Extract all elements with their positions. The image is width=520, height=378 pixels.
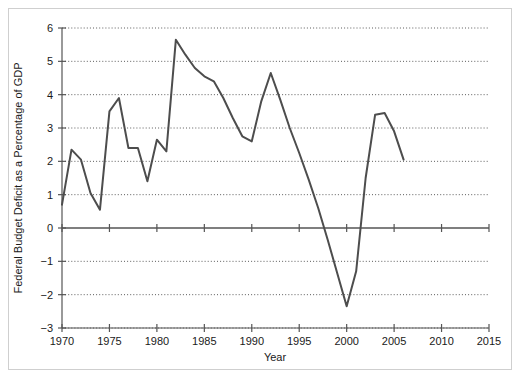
y-tick-labels-group: −3−2−10123456 bbox=[40, 22, 53, 334]
deficit-series-line bbox=[62, 40, 404, 307]
x-tick-label-1970: 1970 bbox=[50, 335, 74, 347]
chart-figure: −3−2−10123456 19701975198019851990199520… bbox=[0, 0, 520, 378]
x-tick-label-1990: 1990 bbox=[240, 335, 264, 347]
y-axis-title: Federal Budget Deficit as a Percentage o… bbox=[12, 62, 24, 293]
y-tick-label-1: 1 bbox=[47, 189, 53, 201]
x-tick-label-1980: 1980 bbox=[145, 335, 169, 347]
y-tick-label--1: −1 bbox=[40, 255, 53, 267]
x-axis-title: Year bbox=[264, 351, 287, 363]
y-tick-label-6: 6 bbox=[47, 22, 53, 34]
x-tick-label-2000: 2000 bbox=[334, 335, 358, 347]
x-tick-labels-group: 1970197519801985199019952000200520102015 bbox=[50, 335, 501, 347]
y-tick-label-0: 0 bbox=[47, 222, 53, 234]
line-chart-plot: −3−2−10123456 19701975198019851990199520… bbox=[0, 0, 520, 378]
y-tick-label--2: −2 bbox=[40, 289, 53, 301]
y-tick-label-2: 2 bbox=[47, 155, 53, 167]
x-tick-label-1995: 1995 bbox=[287, 335, 311, 347]
gridlines-group bbox=[62, 28, 489, 328]
x-tick-label-1985: 1985 bbox=[192, 335, 216, 347]
x-tick-label-1975: 1975 bbox=[97, 335, 121, 347]
x-tick-label-2005: 2005 bbox=[382, 335, 406, 347]
y-tick-label-3: 3 bbox=[47, 122, 53, 134]
y-tick-label-5: 5 bbox=[47, 55, 53, 67]
x-tick-label-2010: 2010 bbox=[429, 335, 453, 347]
y-tick-label-4: 4 bbox=[47, 89, 53, 101]
y-tick-label--3: −3 bbox=[40, 322, 53, 334]
x-tick-label-2015: 2015 bbox=[477, 335, 501, 347]
x-tick-marks-group bbox=[62, 224, 489, 332]
